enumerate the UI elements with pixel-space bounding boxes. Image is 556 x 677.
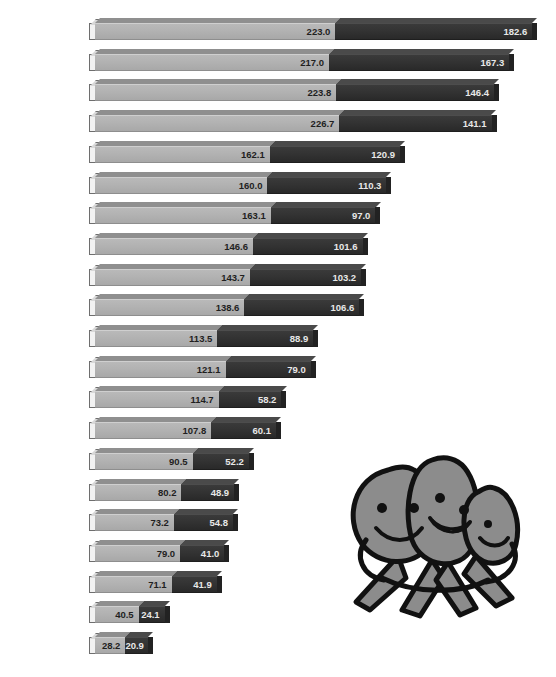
bar-right-endcap bbox=[492, 115, 497, 132]
bar-right-endcap bbox=[217, 576, 222, 593]
value-label-dark: 24.1 bbox=[139, 606, 160, 623]
value-label-dark: 60.1 bbox=[211, 422, 271, 439]
stacked-bar: 114.758.2 bbox=[95, 386, 287, 408]
value-label-dark: 120.9 bbox=[270, 146, 395, 163]
stacked-bar: 107.860.1 bbox=[95, 417, 282, 439]
value-label-light: 143.7 bbox=[95, 269, 245, 286]
bar-right-endcap bbox=[363, 238, 368, 255]
bar-right-endcap bbox=[400, 146, 405, 163]
value-label-dark: 54.8 bbox=[174, 514, 228, 531]
stacked-bar: 163.197.0 bbox=[95, 202, 381, 224]
bar-chart: Finland223.0182.6United Kingdom217.0167.… bbox=[0, 0, 556, 677]
bar-right-endcap bbox=[233, 514, 238, 531]
bar-right-endcap bbox=[375, 207, 380, 224]
bar-right-endcap bbox=[224, 545, 229, 562]
value-label-light: 114.7 bbox=[95, 391, 214, 408]
stacked-bar: 40.524.1 bbox=[95, 601, 171, 623]
value-label-light: 146.6 bbox=[95, 238, 248, 255]
value-label-dark: 182.6 bbox=[335, 23, 527, 40]
bar-right-endcap bbox=[532, 23, 537, 40]
value-label-dark: 41.0 bbox=[180, 545, 219, 562]
stacked-bar: 80.248.9 bbox=[95, 479, 240, 501]
value-label-dark: 41.9 bbox=[172, 576, 212, 593]
stacked-bar: 121.179.0 bbox=[95, 356, 317, 378]
value-label-dark: 110.3 bbox=[267, 177, 381, 194]
value-label-light: 113.5 bbox=[95, 330, 212, 347]
stacked-bar: 226.7141.1 bbox=[95, 110, 498, 132]
value-label-light: 121.1 bbox=[95, 361, 221, 378]
value-label-light: 79.0 bbox=[95, 545, 175, 562]
value-label-dark: 79.0 bbox=[226, 361, 306, 378]
value-label-light: 73.2 bbox=[95, 514, 169, 531]
stacked-bar: 73.254.8 bbox=[95, 509, 239, 531]
bar-right-endcap bbox=[281, 391, 286, 408]
value-label-light: 28.2 bbox=[95, 637, 120, 654]
stacked-bar: 162.1120.9 bbox=[95, 141, 406, 163]
bar-right-endcap bbox=[311, 361, 316, 378]
bar-right-endcap bbox=[386, 177, 391, 194]
value-label-light: 80.2 bbox=[95, 484, 176, 501]
bar-right-endcap bbox=[494, 84, 499, 101]
value-label-dark: 52.2 bbox=[193, 453, 244, 470]
bar-right-endcap bbox=[234, 484, 239, 501]
value-label-light: 90.5 bbox=[95, 453, 188, 470]
value-label-dark: 88.9 bbox=[217, 330, 308, 347]
value-label-light: 163.1 bbox=[95, 207, 266, 224]
value-label-light: 217.0 bbox=[95, 54, 324, 71]
value-label-dark: 58.2 bbox=[219, 391, 277, 408]
bar-right-endcap bbox=[313, 330, 318, 347]
value-label-light: 223.0 bbox=[95, 23, 330, 40]
bar-right-endcap bbox=[148, 637, 153, 654]
bar-right-endcap bbox=[249, 453, 254, 470]
value-label-dark: 97.0 bbox=[271, 207, 371, 224]
value-label-light: 160.0 bbox=[95, 177, 262, 194]
stacked-bar: 143.7103.2 bbox=[95, 264, 367, 286]
stacked-bar: 71.141.9 bbox=[95, 571, 223, 593]
value-label-dark: 48.9 bbox=[181, 484, 229, 501]
value-label-dark: 146.4 bbox=[336, 84, 489, 101]
stacked-bar: 160.0110.3 bbox=[95, 172, 392, 194]
value-label-light: 71.1 bbox=[95, 576, 167, 593]
value-label-dark: 141.1 bbox=[339, 115, 486, 132]
value-label-light: 138.6 bbox=[95, 299, 239, 316]
value-label-light: 223.8 bbox=[95, 84, 331, 101]
value-label-dark: 20.9 bbox=[125, 637, 143, 654]
stacked-bar: 138.6106.6 bbox=[95, 294, 365, 316]
value-label-dark: 101.6 bbox=[253, 238, 358, 255]
bar-right-endcap bbox=[276, 422, 281, 439]
stacked-bar: 113.588.9 bbox=[95, 325, 319, 347]
stacked-bar: 28.220.9 bbox=[95, 632, 154, 654]
value-label-light: 226.7 bbox=[95, 115, 334, 132]
stacked-bar: 223.0182.6 bbox=[95, 18, 538, 40]
stacked-bar: 79.041.0 bbox=[95, 540, 230, 562]
stacked-bar: 90.552.2 bbox=[95, 448, 255, 470]
value-label-dark: 106.6 bbox=[244, 299, 354, 316]
stacked-bar: 223.8146.4 bbox=[95, 79, 500, 101]
bar-right-endcap bbox=[509, 54, 514, 71]
stacked-bar: 217.0167.3 bbox=[95, 49, 515, 71]
value-label-dark: 167.3 bbox=[329, 54, 504, 71]
three-smiling-characters-mascot bbox=[336, 452, 546, 624]
stacked-bar: 146.6101.6 bbox=[95, 233, 369, 255]
bar-right-endcap bbox=[165, 606, 170, 623]
value-label-dark: 103.2 bbox=[250, 269, 356, 286]
value-label-light: 162.1 bbox=[95, 146, 265, 163]
value-label-light: 40.5 bbox=[95, 606, 134, 623]
bar-right-endcap bbox=[361, 269, 366, 286]
bar-right-endcap bbox=[359, 299, 364, 316]
value-label-light: 107.8 bbox=[95, 422, 206, 439]
